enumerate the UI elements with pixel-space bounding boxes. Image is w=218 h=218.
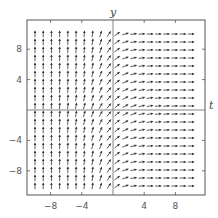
y-tick-label: 8 xyxy=(16,44,22,54)
x-tick-label: 4 xyxy=(141,201,147,211)
x-tick-label: −8 xyxy=(44,201,58,211)
y-tick-label: −8 xyxy=(9,166,23,176)
direction-field-plot: −8−448−8−448 y t xyxy=(0,0,218,218)
x-tick-label: 8 xyxy=(173,201,179,211)
y-axis-label: y xyxy=(109,6,117,19)
plot-frame xyxy=(27,20,205,195)
y-tick-label: −4 xyxy=(9,135,23,145)
t-axis-label: t xyxy=(209,99,214,112)
x-tick-label: −4 xyxy=(75,201,89,211)
y-tick-label: 4 xyxy=(16,75,22,85)
